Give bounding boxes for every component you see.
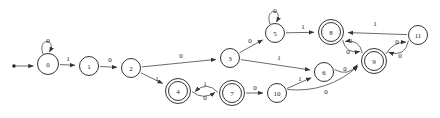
transition-label-1-2: 0 [108, 56, 112, 64]
transition-label-4-7: 0 [203, 94, 207, 102]
state-node-11[interactable]: 11 [409, 26, 428, 45]
state-node-9[interactable]: 9 [362, 49, 387, 74]
start-dot [12, 64, 16, 68]
transition-label-10-9: 0 [324, 88, 328, 96]
state-node-3[interactable]: 3 [221, 49, 240, 68]
state-node-10[interactable]: 10 [268, 84, 287, 103]
transition-11-8-1 [348, 33, 407, 35]
transition-3-6-1 [241, 60, 310, 70]
state-circle [409, 26, 428, 45]
transition-4-7-0 [192, 92, 215, 97]
transition-label-0-1: 1 [66, 55, 70, 63]
state-circle [80, 57, 99, 76]
state-node-6[interactable]: 6 [315, 63, 334, 82]
transition-label-3-6: 1 [277, 54, 281, 62]
state-circle [38, 54, 59, 75]
state-node-5[interactable]: 5 [266, 24, 285, 43]
transition-label-3-5: 0 [248, 37, 252, 45]
transition-5-5-0 [269, 11, 278, 24]
state-circle [221, 49, 240, 68]
transition-5-8-1 [286, 32, 314, 33]
state-circle [268, 84, 287, 103]
state-circle [315, 63, 334, 82]
state-circle [169, 82, 188, 101]
state-circle [365, 52, 384, 71]
edges-layer [12, 11, 408, 96]
state-circle [266, 24, 285, 43]
transition-7-4-1 [195, 86, 218, 92]
state-node-7[interactable]: 7 [220, 81, 245, 106]
state-node-8[interactable]: 8 [319, 20, 344, 45]
transition-2-4-1 [141, 73, 163, 84]
transition-label-5-8: 1 [301, 23, 305, 31]
transition-label-11-8: 1 [373, 20, 377, 28]
transition-0-1-1 [60, 65, 75, 66]
transition-label-2-3: 0 [179, 52, 183, 60]
automaton-diagram: 01234567891011 01001010010100101010 [0, 0, 440, 118]
state-circle [122, 59, 141, 78]
state-node-1[interactable]: 1 [80, 57, 99, 76]
nodes-layer: 01234567891011 [38, 20, 428, 106]
state-node-0[interactable]: 0 [38, 54, 59, 75]
transition-10-6-1 [287, 78, 311, 89]
state-node-4[interactable]: 4 [166, 79, 191, 104]
transition-3-5-0 [240, 40, 263, 53]
transition-label-9-11: 0 [395, 38, 399, 46]
transition-6-9-0 [335, 65, 358, 73]
state-circle [322, 23, 341, 42]
state-node-2[interactable]: 2 [122, 59, 141, 78]
automaton-canvas: 01234567891011 01001010010100101010 [0, 0, 440, 118]
transition-1-2-0 [100, 67, 117, 68]
transition-0-0-0 [42, 41, 51, 54]
transition-2-3-0 [142, 59, 216, 66]
state-circle [223, 84, 242, 103]
transition-label-7-10: 0 [253, 84, 257, 92]
